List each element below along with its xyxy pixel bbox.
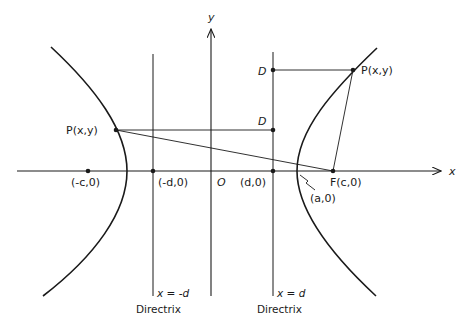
right-directrix-equation: x = d (276, 287, 306, 299)
left-P-dot (114, 128, 119, 133)
left-focus-label: (-c,0) (71, 176, 100, 189)
top-D-dot (271, 68, 276, 73)
vertex-pointer (300, 175, 315, 190)
right-P-to-F-line (333, 70, 353, 171)
left-point-label: P(x,y) (66, 124, 98, 137)
left-directrix-dot (151, 169, 156, 174)
top-D-label: D (258, 65, 266, 78)
right-focus-dot (331, 169, 336, 174)
origin-label: O (217, 176, 226, 189)
hyperbola-diagram: x y (-c,0) (-d,0) O (d,0) F(c,0) (a,0) P… (0, 0, 470, 330)
right-directrix-caption: Directrix (257, 303, 302, 315)
left-D-dot (271, 128, 276, 133)
right-directrix-intercept-label: (d,0) (240, 176, 266, 189)
left-directrix-intercept-label: (-d,0) (158, 176, 188, 189)
vertex-label: (a,0) (310, 192, 336, 205)
right-hyperbola-branch (297, 48, 377, 296)
left-directrix-equation: x = -d (156, 287, 189, 299)
left-D-label: D (258, 115, 266, 128)
right-P-dot (351, 68, 356, 73)
right-focus-label: F(c,0) (330, 176, 361, 189)
left-focus-dot (86, 169, 91, 174)
right-directrix-dot (271, 169, 276, 174)
y-axis-label: y (207, 11, 215, 24)
left-directrix-caption: Directrix (136, 303, 181, 315)
x-axis-label: x (448, 165, 456, 178)
right-point-label: P(x,y) (361, 64, 393, 77)
